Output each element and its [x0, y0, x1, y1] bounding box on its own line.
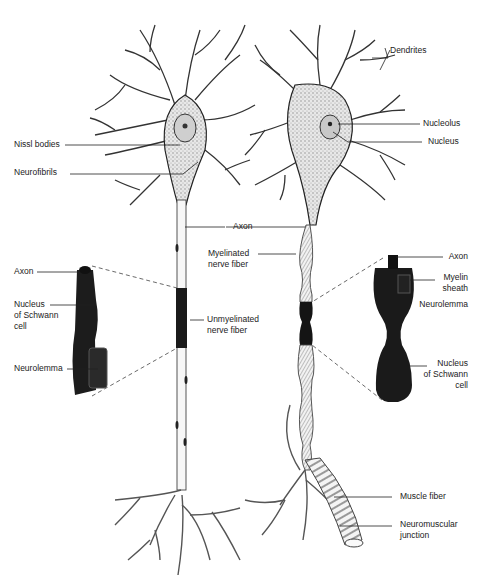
label-muscle-fiber: Muscle fiber — [400, 491, 446, 502]
muscle-fiber — [305, 458, 362, 545]
left-soma — [164, 95, 206, 205]
label-nissl-bodies: Nissl bodies — [14, 139, 60, 150]
right-soma — [288, 84, 353, 225]
left-nucleolus — [183, 124, 188, 129]
right-myelin-cutaway — [299, 302, 312, 345]
label-right-neurolemma: Neurolemma — [400, 299, 468, 310]
label-axon-center: Axon — [233, 221, 252, 232]
label-left-neurolemma: Neurolemma — [14, 363, 63, 374]
neuron-diagram: Dendrites Nucleolus Nucleus Nissl bodies… — [0, 0, 484, 588]
label-right-axon: Axon — [430, 251, 468, 262]
label-left-axon: Axon — [14, 266, 33, 277]
label-neuromuscular-junction: Neuromuscular junction — [400, 519, 458, 541]
left-axon-terminals — [115, 490, 240, 575]
label-right-schwann-nucleus: Nucleus of Schwann cell — [410, 358, 468, 391]
label-nucleolus: Nucleolus — [423, 118, 460, 129]
label-nucleus: Nucleus — [428, 136, 459, 147]
left-unmyelinated-segment — [176, 288, 187, 348]
label-left-schwann-nucleus: Nucleus of Schwann cell — [14, 299, 58, 332]
label-dendrites: Dendrites — [390, 45, 426, 56]
label-right-myelin-sheath: Myelin sheath — [420, 272, 468, 294]
right-nucleolus — [328, 122, 332, 126]
label-unmyelinated-fiber: Unmyelinated nerve fiber — [207, 314, 259, 336]
label-myelinated-fiber: Myelinated nerve fiber — [208, 248, 249, 270]
label-neurofibrils: Neurofibrils — [14, 167, 57, 178]
right-nucleus — [320, 115, 340, 139]
